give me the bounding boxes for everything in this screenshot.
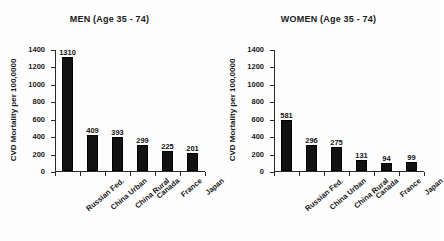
y-tick-men: 600 [51, 120, 55, 121]
chart-panel-men: MEN (Age 35 - 74) CVD Mortality per 100,… [0, 0, 219, 241]
plot-area-men: 02004006008001000120014001310Russian Fed… [55, 50, 205, 172]
chart-title-women: WOMEN (Age 35 - 74) [219, 14, 438, 24]
y-tick-women: 1000 [270, 85, 274, 86]
bar-men [112, 137, 124, 171]
chart-panel-women: WOMEN (Age 35 - 74) CVD Mortality per 10… [219, 0, 438, 241]
y-tick-women: 400 [270, 137, 274, 138]
x-category-label-women: France [398, 177, 422, 199]
x-category-label-men: France [179, 177, 203, 199]
bar-men [187, 153, 199, 171]
x-category-label-women: Japan [423, 177, 444, 197]
bar-value-label-women: 296 [305, 137, 318, 145]
y-tick-label-men: 0 [41, 168, 45, 176]
y-tick-label-men: 1400 [28, 46, 45, 54]
bar-value-label-men: 299 [136, 136, 149, 144]
y-tick-women: 1200 [270, 67, 274, 68]
y-tick-label-women: 1000 [247, 81, 264, 89]
x-tick-men [205, 172, 206, 176]
y-tick-men: 1400 [51, 50, 55, 51]
bar-women [406, 162, 418, 171]
y-tick-label-men: 1000 [28, 81, 45, 89]
x-tick-men [80, 172, 81, 176]
bar-value-label-women: 99 [407, 154, 415, 162]
bar-men [137, 145, 149, 171]
x-tick-women [424, 172, 425, 176]
y-tick-label-women: 200 [251, 151, 264, 159]
bar-value-label-men: 393 [111, 128, 124, 136]
y-tick-men: 800 [51, 102, 55, 103]
y-tick-label-men: 800 [32, 99, 45, 107]
y-tick-label-women: 0 [260, 168, 264, 176]
y-tick-men: 400 [51, 137, 55, 138]
bar-value-label-women: 275 [330, 139, 343, 147]
y-axis-label-women: CVD Mortality per 100,0000 [228, 45, 242, 175]
x-tick-women [374, 172, 375, 176]
bar-value-label-men: 201 [186, 145, 199, 153]
plot-area-women: 0200400600800100012001400581Russian Fed.… [274, 50, 424, 172]
y-tick-men: 1200 [51, 67, 55, 68]
bar-value-label-men: 1310 [59, 48, 76, 56]
x-tick-men [130, 172, 131, 176]
x-tick-women [324, 172, 325, 176]
y-axis-label-men: CVD Mortality per 100,0000 [9, 45, 23, 175]
x-tick-men [105, 172, 106, 176]
bar-men [62, 57, 74, 171]
y-axis-line-women [274, 50, 275, 172]
y-tick-label-men: 1200 [28, 64, 45, 72]
y-tick-women: 800 [270, 102, 274, 103]
bar-value-label-women: 131 [355, 151, 368, 159]
y-tick-women: 1400 [270, 50, 274, 51]
y-axis-line-men [55, 50, 56, 172]
chart-title-men: MEN (Age 35 - 74) [0, 14, 219, 24]
x-tick-men [55, 172, 56, 176]
y-tick-label-men: 400 [32, 133, 45, 141]
y-tick-label-men: 600 [32, 116, 45, 124]
bar-men [87, 135, 99, 171]
y-tick-women: 600 [270, 120, 274, 121]
bar-women [281, 120, 293, 171]
bar-women [306, 145, 318, 171]
y-tick-label-men: 200 [32, 151, 45, 159]
y-tick-label-women: 800 [251, 99, 264, 107]
x-tick-women [399, 172, 400, 176]
y-tick-men: 1000 [51, 85, 55, 86]
y-tick-label-women: 400 [251, 133, 264, 141]
x-tick-women [349, 172, 350, 176]
x-tick-women [299, 172, 300, 176]
x-tick-women [274, 172, 275, 176]
x-tick-men [155, 172, 156, 176]
bar-women [331, 147, 343, 171]
bar-value-label-women: 581 [280, 112, 293, 120]
y-tick-men: 200 [51, 155, 55, 156]
bar-value-label-men: 409 [86, 127, 99, 135]
y-tick-label-women: 1200 [247, 64, 264, 72]
bar-women [356, 160, 368, 171]
bar-value-label-women: 94 [382, 154, 390, 162]
y-tick-label-women: 600 [251, 116, 264, 124]
bar-value-label-men: 225 [161, 143, 174, 151]
y-tick-label-women: 1400 [247, 46, 264, 54]
bar-men [162, 151, 174, 171]
y-tick-women: 200 [270, 155, 274, 156]
x-tick-men [180, 172, 181, 176]
bar-women [381, 163, 393, 171]
